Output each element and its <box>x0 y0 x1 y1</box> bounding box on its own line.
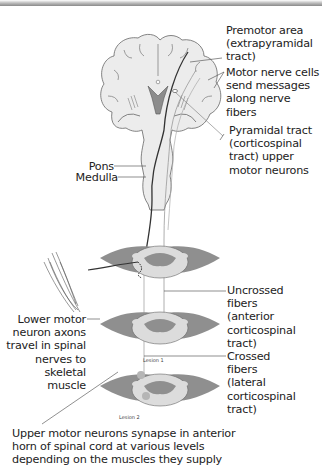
brain-coronal-section <box>101 34 221 210</box>
spinal-section-2 <box>100 312 220 344</box>
spinal-cord-sections <box>88 246 220 406</box>
label-lesion-1: Lesion 1 <box>143 357 164 363</box>
lesion-1-marker <box>137 371 145 379</box>
lesion-2-marker <box>142 392 150 400</box>
label-lower-motor-neuron: Lower motor neuron axons travel in spina… <box>6 313 86 392</box>
spinal-section-1 <box>88 246 220 278</box>
label-crossed-fibers: Crossed fibers (lateral corticospinal tr… <box>227 350 296 416</box>
label-pyramidal-tract: Pyramidal tract (corticospinal tract) up… <box>229 124 312 177</box>
skeletal-muscle-icon <box>44 252 80 312</box>
figure-caption: Upper motor neurons synapse in anterior … <box>12 427 235 467</box>
label-lesion-2: Lesion 2 <box>119 414 140 420</box>
label-motor-nerve-cells: Motor nerve cells send messages along ne… <box>226 66 319 119</box>
label-medulla: Medulla <box>60 171 118 184</box>
spinal-section-3 <box>100 371 220 406</box>
label-uncrossed-fibers: Uncrossed fibers (anterior corticospinal… <box>227 284 296 350</box>
label-premotor-area: Premotor area (extrapyramidal tract) <box>226 24 313 64</box>
